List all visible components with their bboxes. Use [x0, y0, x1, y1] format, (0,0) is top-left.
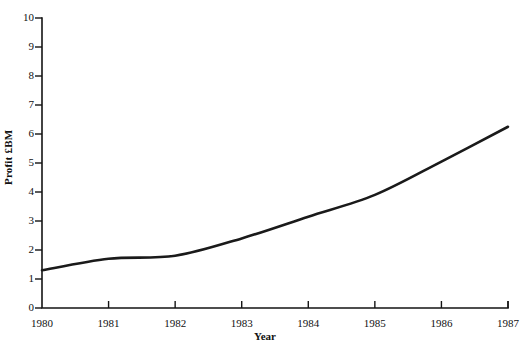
- y-axis-ticks: [35, 18, 42, 308]
- data-series-group: [42, 127, 508, 271]
- chart-container: Profit £BM 012345678910 1980198119821983…: [0, 0, 530, 356]
- plot-area: [0, 0, 530, 356]
- profit-line: [42, 127, 508, 271]
- x-axis-ticks: [109, 301, 508, 308]
